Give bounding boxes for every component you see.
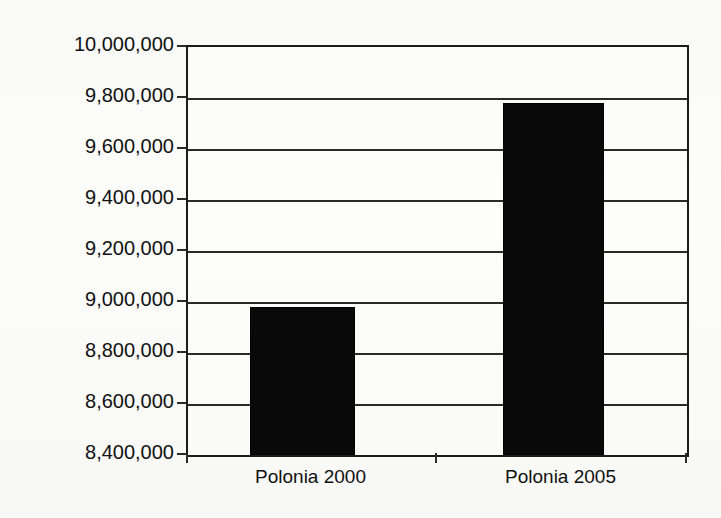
y-axis-tick: [177, 453, 186, 455]
y-axis-tick: [177, 402, 186, 404]
y-axis-label: 9,000,000: [14, 289, 174, 309]
y-axis-label: 9,400,000: [14, 187, 174, 207]
y-axis-tick: [177, 96, 186, 98]
y-axis-label-group: 10,000,000 9,800,000 9,600,000 9,400,000…: [8, 0, 174, 518]
y-axis-label: 9,200,000: [14, 238, 174, 258]
gridline: [188, 98, 687, 100]
gridline: [188, 251, 687, 253]
y-axis-label: 8,600,000: [14, 391, 174, 411]
y-axis-tick: [177, 147, 186, 149]
y-axis-tick: [177, 300, 186, 302]
y-axis-label: 8,400,000: [14, 442, 174, 462]
y-axis-tick: [177, 45, 186, 47]
x-axis-tick: [186, 453, 188, 463]
gridline: [188, 149, 687, 151]
y-axis-label: 8,800,000: [14, 340, 174, 360]
y-axis-label: 9,800,000: [14, 85, 174, 105]
gridline: [188, 200, 687, 202]
y-axis-label: 10,000,000: [14, 34, 174, 54]
y-axis-tick: [177, 198, 186, 200]
plot-area: [186, 45, 689, 457]
x-axis-tick: [685, 453, 687, 463]
gridline: [188, 302, 687, 304]
bar-polonia-2000[interactable]: [250, 307, 355, 455]
x-axis-label-polonia-2005: Polonia 2005: [436, 466, 685, 489]
x-axis-label-polonia-2000: Polonia 2000: [186, 466, 435, 489]
x-axis-tick: [435, 453, 437, 463]
bar-chart-figure: 10,000,000 9,800,000 9,600,000 9,400,000…: [0, 0, 721, 518]
y-axis-tick: [177, 351, 186, 353]
bar-polonia-2005[interactable]: [503, 103, 604, 455]
y-axis-label: 9,600,000: [14, 136, 174, 156]
y-axis-tick: [177, 249, 186, 251]
